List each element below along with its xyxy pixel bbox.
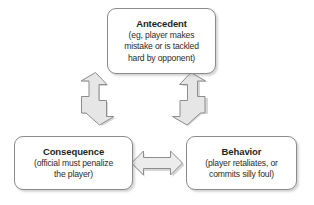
node-consequence-description: (official must penalize the player) xyxy=(34,158,113,181)
node-behavior[interactable]: Behavior (player retaliates, or commits … xyxy=(186,136,297,190)
node-behavior-description: (player retaliates, or commits silly fou… xyxy=(205,158,278,181)
node-antecedent-title: Antecedent xyxy=(136,18,187,30)
double-headed-horizontal-arrow-icon xyxy=(131,148,187,178)
node-antecedent-description: (eg, player makes mistake or is tackled … xyxy=(124,30,199,64)
arrow-right xyxy=(173,73,206,126)
arrow-left xyxy=(81,73,114,126)
abc-cycle-diagram: Antecedent (eg, player makes mistake or … xyxy=(0,0,314,205)
node-behavior-title: Behavior xyxy=(222,146,262,158)
double-headed-diagonal-arrow-icon xyxy=(172,72,234,130)
node-antecedent[interactable]: Antecedent (eg, player makes mistake or … xyxy=(107,8,216,74)
double-headed-diagonal-arrow-icon xyxy=(80,72,142,130)
node-consequence[interactable]: Consequence (official must penalize the … xyxy=(14,136,133,190)
node-consequence-title: Consequence xyxy=(43,146,104,158)
